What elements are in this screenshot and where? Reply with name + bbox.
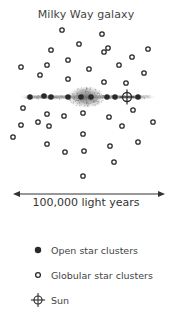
- globular-cluster: [102, 80, 106, 84]
- globular-cluster: [151, 120, 155, 124]
- globular-cluster: [120, 124, 124, 128]
- globular-cluster: [47, 124, 51, 128]
- legend-label: Globular star clusters: [51, 270, 153, 281]
- scale-label: 100,000 light years: [0, 196, 172, 209]
- globular-cluster: [19, 65, 23, 69]
- globular-cluster: [19, 123, 23, 127]
- globular-cluster: [117, 63, 121, 67]
- globular-cluster: [100, 32, 104, 36]
- globular-cluster: [82, 149, 86, 153]
- open-cluster: [41, 93, 47, 99]
- globular-cluster: [81, 174, 85, 178]
- globular-cluster: [45, 63, 49, 67]
- globular-cluster: [11, 135, 15, 139]
- legend-item-sun: Sun: [30, 292, 69, 308]
- globular-cluster: [146, 47, 150, 51]
- globular-cluster: [108, 144, 112, 148]
- globular-cluster: [124, 81, 128, 85]
- open-cluster-dot-icon: [30, 242, 46, 258]
- galactic-disk: [20, 86, 155, 108]
- sun-crosshair-icon: [30, 292, 46, 308]
- open-cluster: [65, 94, 71, 100]
- globular-cluster: [81, 111, 85, 115]
- globular-cluster: [66, 58, 70, 62]
- legend-item-globular-clusters: Globular star clusters: [30, 267, 153, 283]
- open-cluster: [104, 94, 110, 100]
- open-cluster: [135, 94, 141, 100]
- globular-cluster: [66, 77, 70, 81]
- globular-cluster: [63, 150, 67, 154]
- open-cluster: [48, 94, 54, 100]
- globular-cluster: [36, 120, 40, 124]
- globular-cluster: [77, 42, 81, 46]
- legend-label: Sun: [51, 295, 69, 306]
- globular-cluster: [131, 108, 135, 112]
- open-cluster: [112, 94, 118, 100]
- open-cluster: [88, 94, 94, 100]
- globular-cluster: [60, 28, 64, 32]
- legend-label: Open star clusters: [51, 245, 138, 256]
- globular-cluster: [45, 112, 49, 116]
- legend-item-open-clusters: Open star clusters: [30, 242, 138, 258]
- globular-cluster: [106, 46, 110, 50]
- globular-cluster: [49, 48, 53, 52]
- globular-cluster: [112, 160, 116, 164]
- globular-cluster: [130, 55, 134, 59]
- globular-cluster: [38, 73, 42, 77]
- globular-cluster: [81, 132, 85, 136]
- globular-cluster: [107, 115, 111, 119]
- open-cluster: [27, 94, 33, 100]
- globular-cluster: [45, 142, 49, 146]
- globular-cluster-ring-icon: [30, 267, 46, 283]
- globular-cluster: [102, 50, 106, 54]
- sun-icon: [120, 90, 135, 105]
- globular-cluster: [87, 67, 91, 71]
- open-cluster: [78, 94, 84, 100]
- globular-cluster: [136, 140, 140, 144]
- globular-cluster: [21, 106, 25, 110]
- globular-cluster: [142, 71, 146, 75]
- globular-cluster: [62, 114, 66, 118]
- galaxy-diagram: [0, 0, 172, 335]
